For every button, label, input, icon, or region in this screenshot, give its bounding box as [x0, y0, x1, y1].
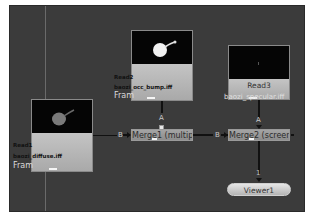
thumbnail-read2-icon: [132, 31, 192, 64]
thumbnail-read3-icon: [229, 46, 289, 79]
edge-read2-merge1: [161, 101, 163, 113]
frame-slider[interactable]: [147, 97, 155, 99]
merge2-indicator: [249, 138, 254, 140]
read3-node[interactable]: Read3: [228, 45, 290, 100]
read3-name: Read3: [229, 82, 289, 90]
read1-frame-label: Fram: [13, 162, 33, 170]
merge1-input-a-label[interactable]: A: [159, 115, 164, 122]
node-graph-canvas[interactable]: Read1 baozi_diffuse.iff Fram Read2 baozi…: [9, 5, 305, 212]
frame-slider[interactable]: [49, 168, 57, 170]
merge1-indicator: [152, 138, 157, 140]
edge-read1-merge1: [93, 135, 117, 136]
viewer1-input-label[interactable]: 1: [256, 170, 260, 177]
read3-file: baozi_specular.iff: [224, 93, 284, 101]
read2-node[interactable]: [131, 30, 193, 101]
viewer1-name: Viewer1: [228, 186, 290, 195]
edge-merge1-merge2: [193, 134, 213, 136]
merge1-name: Merge1 (multiply): [132, 131, 192, 141]
read2-file: baozi_occ_bump.iff: [114, 84, 172, 90]
read1-file: baozi_diffuse.iff: [13, 153, 62, 159]
read1-node[interactable]: [31, 99, 93, 172]
merge2-name: Merge2 (screen): [229, 131, 289, 141]
merge1-node[interactable]: Merge1 (multiply): [131, 129, 193, 141]
merge1-input-b-label[interactable]: B: [118, 132, 123, 139]
arrow-viewer1-input: [256, 178, 262, 182]
merge2-node[interactable]: Merge2 (screen): [228, 129, 290, 141]
merge2-input-b-label[interactable]: B: [215, 132, 220, 139]
read2-name: Read2: [114, 74, 133, 80]
merge2-input-a-label[interactable]: A: [256, 117, 261, 124]
merge2-output-tick: [291, 134, 294, 136]
read2-frame-label: Fram: [114, 92, 134, 100]
viewer1-node[interactable]: Viewer1: [227, 183, 291, 196]
thumbnail-read1-icon: [32, 100, 92, 133]
read1-name: Read1: [13, 142, 32, 148]
